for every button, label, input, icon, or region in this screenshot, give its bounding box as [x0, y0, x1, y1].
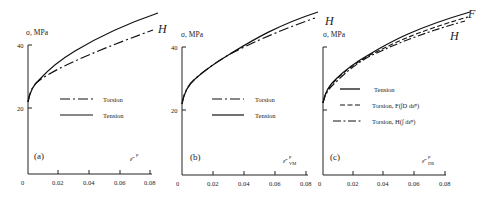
x-tick-label: 0.08 [144, 179, 155, 186]
tension-curve [28, 13, 158, 102]
panel-a: 40 20 0 0.02 0.04 0.06 0.08 σ, MPa ε̄ p … [17, 13, 168, 186]
panel-label: (c) [330, 152, 340, 162]
curve-label-h: H [157, 22, 168, 36]
x-tick-label: 0.04 [377, 180, 389, 187]
x-tick-label: 0.08 [439, 180, 450, 187]
legend: Tension Torsion, F(∫D dε̄ᵖ) Torsion, H(∫… [333, 86, 419, 126]
torsion-h-curve [28, 30, 153, 102]
y-tick-label: 20 [171, 107, 178, 114]
panel-b: 40 20 0 0.02 0.04 0.06 0.08 σ, MPa ε̄ p … [171, 12, 335, 187]
legend-label: Torsion [255, 96, 276, 103]
x-tick-label: 0.06 [269, 180, 281, 187]
x-axis-title-sup: p [428, 154, 431, 159]
x-tick-label: 0.08 [300, 180, 311, 187]
legend: Torsion Tension [212, 96, 276, 119]
legend-label: Tension [255, 112, 276, 119]
x-axis-title: ε̄ [283, 157, 288, 165]
x-axis-title-sup: p [136, 152, 139, 157]
x-tick-label: 0 [318, 180, 321, 187]
y-axis-title: σ, MPa [323, 30, 346, 39]
x-tick-label: 0.02 [347, 180, 358, 187]
x-tick-label: 0.06 [114, 179, 126, 186]
x-axis-title: ε̄ [422, 157, 427, 165]
y-tick-label: 20 [17, 105, 24, 112]
legend-label: Torsion [103, 96, 124, 103]
x-tick-label: 0.04 [83, 179, 95, 186]
x-tick-label: 0 [21, 179, 24, 186]
figure: 40 20 0 0.02 0.04 0.06 0.08 σ, MPa ε̄ p … [0, 0, 486, 197]
legend-label: Torsion, F(∫D dε̄ᵖ) [372, 102, 419, 110]
panel-c: 0 0.02 0.04 0.06 0.08 σ, MPa ε̄ p DR F H… [318, 7, 476, 187]
y-tick-label: 40 [17, 42, 24, 49]
x-tick-label: 0 [176, 180, 179, 187]
curve-label-h: H [324, 14, 335, 28]
x-tick-label: 0.04 [238, 180, 250, 187]
x-axis-title-sup: p [289, 154, 292, 159]
x-axis-title-sub: VM [289, 161, 296, 166]
legend-label: Tension [374, 86, 395, 93]
y-axis-title: σ, MPa [181, 30, 204, 39]
curve-label-h: H [449, 29, 460, 43]
y-axis-title: σ, MPa [26, 28, 49, 37]
legend: Torsion Tension [60, 96, 124, 119]
y-tick-label: 40 [171, 44, 178, 51]
curve-label-f: F [467, 7, 476, 21]
x-tick-label: 0.02 [207, 180, 218, 187]
panel-label: (a) [34, 151, 44, 161]
x-tick-label: 0.06 [408, 180, 420, 187]
x-axis-title-sub: DR [428, 161, 434, 166]
legend-label: Tension [103, 112, 124, 119]
legend-label: Torsion, H(∫ dε̄ᵖ) [372, 118, 415, 126]
x-axis-title: ε̄ [130, 155, 135, 163]
x-tick-label: 0.02 [52, 179, 63, 186]
panel-label: (b) [190, 152, 201, 162]
tension-curve [182, 12, 318, 104]
